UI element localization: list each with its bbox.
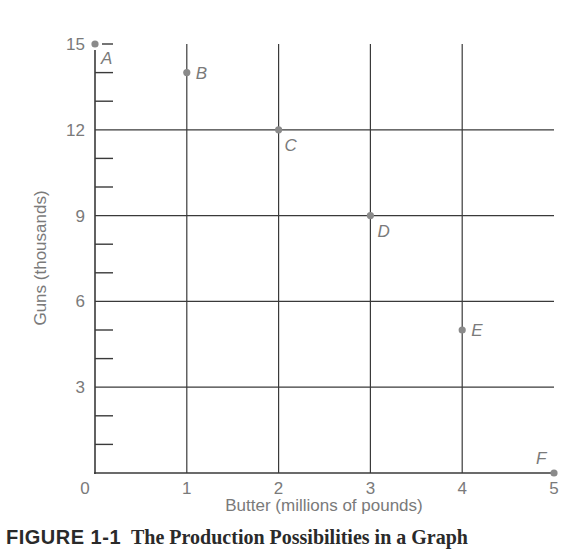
data-point-f [550, 469, 557, 476]
y-tick-label: 3 [76, 378, 85, 397]
figure-number: FIGURE 1-1 [6, 526, 121, 548]
axes [94, 44, 554, 474]
y-tick-label: 9 [76, 207, 85, 226]
y-tick-label: 6 [76, 292, 85, 311]
y-tick-label: 12 [66, 121, 85, 140]
point-label-b: B [196, 64, 207, 83]
point-label-a: A [100, 49, 112, 68]
y-tick-label: 15 [66, 35, 85, 54]
data-point-c [275, 126, 282, 133]
data-point-b [183, 69, 190, 76]
data-point-a [91, 40, 98, 47]
figure-caption: FIGURE 1-1The Production Possibilities i… [6, 526, 468, 549]
point-label-c: C [285, 136, 298, 155]
x-axis-title: Butter (millions of pounds) [225, 496, 422, 515]
data-point-d [367, 212, 374, 219]
production-possibilities-chart: 012345 3691215 ABCDEF Butter (millions o… [0, 0, 584, 549]
x-tick-label: 0 [80, 479, 89, 498]
data-point-e [459, 326, 466, 333]
point-label-e: E [471, 321, 483, 340]
point-label-d: D [377, 222, 389, 241]
grid-lines [95, 44, 554, 473]
x-tick-label: 5 [549, 479, 558, 498]
y-axis-title: Guns (thousands) [31, 190, 50, 325]
x-tick-label: 4 [457, 479, 466, 498]
x-tick-label: 1 [182, 479, 191, 498]
figure-title: The Production Possibilities in a Graph [131, 526, 468, 548]
data-points: ABCDEF [91, 40, 557, 476]
y-axis-tick-labels: 3691215 [66, 35, 85, 397]
point-label-f: F [536, 449, 548, 468]
